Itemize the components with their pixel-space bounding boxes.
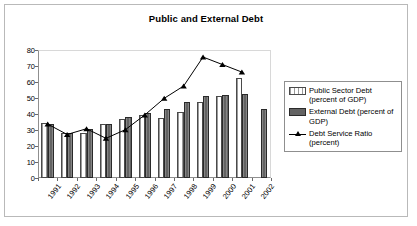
y-axis-tick-label: 20 bbox=[27, 142, 35, 151]
x-axis-tick bbox=[193, 178, 194, 181]
legend-item: External Debt (percent of GDP) bbox=[289, 107, 398, 125]
y-axis-tick bbox=[35, 114, 38, 115]
y-axis-tick bbox=[35, 146, 38, 147]
x-axis-tick-label: 1994 bbox=[104, 182, 121, 201]
chart-title: Public and External Debt bbox=[5, 13, 407, 24]
chart-legend: Public Sector Debt (percent of GDP)Exter… bbox=[284, 81, 402, 152]
y-axis-tick-label: 10 bbox=[27, 158, 35, 167]
legend-item-label: External Debt (percent of GDP) bbox=[309, 107, 398, 125]
bar-external-debt bbox=[222, 95, 228, 178]
x-axis-tick-label: 1991 bbox=[46, 182, 63, 201]
x-axis-tick bbox=[271, 178, 272, 181]
y-axis-tick-label: 80 bbox=[27, 46, 35, 55]
y-axis-tick bbox=[35, 82, 38, 83]
plot-area: 01020304050607080 1991199219931994199519… bbox=[38, 50, 271, 178]
chart-frame: Public and External Debt 010203040506070… bbox=[4, 4, 408, 217]
bar-external-debt bbox=[203, 96, 209, 178]
bar-external-debt bbox=[184, 102, 190, 178]
x-axis-tick bbox=[38, 178, 39, 181]
y-axis-tick-label: 70 bbox=[27, 62, 35, 71]
y-axis-tick bbox=[35, 98, 38, 99]
x-axis-tick bbox=[155, 178, 156, 181]
x-axis-tick-label: 1998 bbox=[181, 182, 198, 201]
bar-external-debt bbox=[242, 94, 248, 178]
bar-external-debt bbox=[67, 133, 73, 178]
legend-item-label: Debt Service Ratio (percent) bbox=[309, 129, 398, 147]
x-axis-tick bbox=[116, 178, 117, 181]
bar-external-debt bbox=[164, 109, 170, 178]
legend-item: Debt Service Ratio (percent) bbox=[289, 129, 398, 147]
x-axis-tick-label: 1995 bbox=[123, 182, 140, 201]
y-axis-tick-label: 40 bbox=[27, 110, 35, 119]
x-axis-tick-label: 2002 bbox=[259, 182, 276, 201]
x-axis-tick bbox=[213, 178, 214, 181]
y-axis-tick bbox=[35, 66, 38, 67]
y-axis-tick bbox=[35, 130, 38, 131]
bar-external-debt bbox=[106, 124, 112, 178]
y-axis-tick-label: 60 bbox=[27, 78, 35, 87]
x-axis-tick-label: 1999 bbox=[201, 182, 218, 201]
x-axis-tick bbox=[77, 178, 78, 181]
legend-swatch-external-icon bbox=[289, 108, 306, 116]
bar-external-debt bbox=[87, 129, 93, 178]
legend-item: Public Sector Debt (percent of GDP) bbox=[289, 86, 398, 104]
x-axis-tick bbox=[96, 178, 97, 181]
legend-item-label: Public Sector Debt (percent of GDP) bbox=[309, 86, 398, 104]
x-axis-tick-label: 1992 bbox=[65, 182, 82, 201]
x-axis-tick bbox=[135, 178, 136, 181]
bar-external-debt bbox=[145, 113, 151, 178]
bar-external-debt bbox=[48, 124, 54, 178]
x-axis-tick-label: 1997 bbox=[162, 182, 179, 201]
x-axis-tick-label: 2001 bbox=[240, 182, 257, 201]
y-axis-tick bbox=[35, 50, 38, 51]
y-axis-tick bbox=[35, 162, 38, 163]
x-axis-tick bbox=[57, 178, 58, 181]
y-axis-tick-label: 50 bbox=[27, 94, 35, 103]
x-axis-tick bbox=[174, 178, 175, 181]
x-axis-tick-label: 1993 bbox=[84, 182, 101, 201]
x-axis-tick-label: 1996 bbox=[143, 182, 160, 201]
bar-external-debt bbox=[261, 109, 267, 178]
legend-swatch-line-icon bbox=[289, 130, 306, 138]
bar-external-debt bbox=[125, 117, 131, 178]
x-axis-tick-label: 2000 bbox=[220, 182, 237, 201]
x-axis-tick bbox=[232, 178, 233, 181]
x-axis-tick bbox=[252, 178, 253, 181]
y-axis-tick-label: 30 bbox=[27, 126, 35, 135]
legend-swatch-public-icon bbox=[289, 87, 306, 95]
